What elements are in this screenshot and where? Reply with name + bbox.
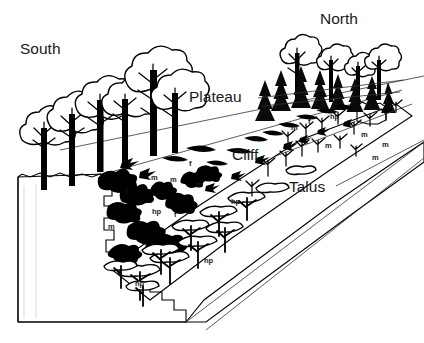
label-cliff: Cliff xyxy=(232,146,259,163)
species-code-m: m xyxy=(372,153,379,162)
zone-label-cliff: Cliff xyxy=(232,146,259,163)
species-code-m: m xyxy=(291,123,298,132)
south-deciduous-forest xyxy=(20,46,210,190)
species-code-m: m xyxy=(151,173,158,182)
zone-label-talus: Talus xyxy=(289,178,325,195)
species-code-m: m xyxy=(170,175,177,184)
label-south: South xyxy=(20,40,61,57)
species-code-hp: hp xyxy=(330,112,340,121)
label-plateau: Plateau xyxy=(189,88,242,105)
species-code-m: m xyxy=(325,141,332,150)
label-talus: Talus xyxy=(289,178,325,195)
species-code-m: m xyxy=(196,180,203,189)
figure-canvas: South North Plateau Cliff Talus mfmmhpff… xyxy=(0,0,424,343)
species-code-f: f xyxy=(189,159,192,168)
species-code-m: m xyxy=(361,130,368,139)
species-code-hp: hp xyxy=(152,207,162,216)
label-north: North xyxy=(320,10,358,27)
species-code-m: m xyxy=(382,140,389,149)
north-mixed-forest xyxy=(255,34,402,121)
orientation-label-north: North xyxy=(320,10,358,27)
cliff-talus-block-diagram: South North Plateau Cliff Talus mfmmhpff… xyxy=(0,0,424,343)
species-code-hp: hp xyxy=(204,256,214,265)
species-code-hp: hp xyxy=(231,197,241,206)
orientation-label-south: South xyxy=(20,40,61,57)
species-code-hp: hp xyxy=(135,279,145,288)
zone-label-plateau: Plateau xyxy=(189,88,242,105)
species-code-m: m xyxy=(108,222,115,231)
